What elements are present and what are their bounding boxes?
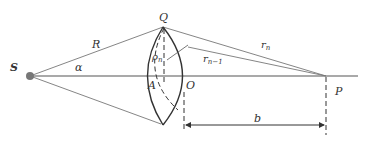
- label-q: Q: [159, 11, 168, 24]
- b-arrow-left-icon: [185, 122, 191, 128]
- ray-s-to-bottom: [30, 76, 161, 124]
- label-r: R: [91, 38, 100, 51]
- label-r-n: rn: [261, 39, 271, 52]
- rho-pointer: [167, 45, 188, 60]
- zone-plate-diagram: S Q R α A O P b ρn rn rn−1: [0, 0, 378, 144]
- label-s: S: [10, 61, 18, 74]
- label-r-n-1: rn−1: [203, 53, 223, 66]
- rn1-sub: n−1: [208, 58, 223, 66]
- label-b: b: [254, 112, 261, 125]
- ray-q-to-p: [163, 27, 326, 76]
- label-alpha: α: [75, 61, 83, 74]
- label-o: O: [186, 79, 195, 92]
- label-p: P: [334, 85, 343, 98]
- label-rho-n: ρn: [151, 51, 163, 64]
- ray-s-to-q: [30, 27, 163, 76]
- rho-sub: n: [158, 56, 163, 64]
- wavefront-dashed-arc: [155, 28, 178, 110]
- label-a: A: [147, 79, 156, 92]
- b-arrow-right-icon: [319, 122, 325, 128]
- source-dot-icon: [26, 72, 34, 80]
- rn-sub: n: [266, 44, 271, 52]
